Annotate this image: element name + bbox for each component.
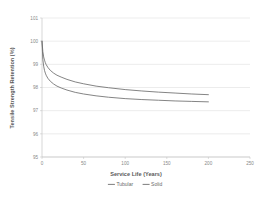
y-tick-label-97: 97 [33, 108, 39, 113]
x-tick-label-250: 250 [246, 161, 254, 166]
line-chart: 9596979899100101 050100150200250 Service… [0, 0, 272, 198]
x-axis-title: Service Life (Years) [110, 171, 162, 177]
x-tick-label-50: 50 [81, 161, 87, 166]
y-tick-label-101: 101 [30, 16, 38, 21]
legend: TubularSolid [108, 181, 163, 187]
gridlines-group [42, 18, 250, 157]
y-tick-label-100: 100 [30, 39, 38, 44]
x-tick-label-200: 200 [205, 161, 213, 166]
y-tick-label-99: 99 [33, 62, 39, 67]
chart-container: 9596979899100101 050100150200250 Service… [0, 0, 272, 198]
x-tick-label-150: 150 [163, 161, 171, 166]
y-axis-tick-labels: 9596979899100101 [30, 16, 38, 160]
x-tick-label-0: 0 [41, 161, 44, 166]
legend-label-tubular: Tubular [116, 181, 133, 187]
y-axis-title: Tensile Strength Retention (%) [9, 47, 15, 128]
series-line-tubular [42, 41, 208, 95]
y-tick-label-98: 98 [33, 85, 39, 90]
series-group [42, 41, 208, 102]
legend-label-solid: Solid [151, 181, 162, 187]
x-axis-tick-labels: 050100150200250 [41, 161, 255, 166]
series-line-solid [42, 41, 208, 102]
axes-group [40, 18, 250, 159]
y-tick-label-95: 95 [33, 155, 39, 160]
x-tick-label-100: 100 [121, 161, 129, 166]
y-tick-label-96: 96 [33, 132, 39, 137]
